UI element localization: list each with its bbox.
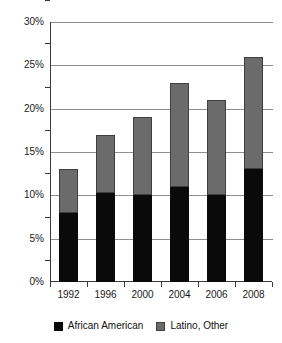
y-axis-label: 0% — [3, 277, 44, 287]
bar-segment-1996-african-american — [96, 193, 115, 282]
x-tick-mark — [161, 282, 162, 287]
y-axis-label: 5% — [3, 234, 44, 244]
bar-segment-2004-latino-other — [170, 83, 189, 187]
x-tick-mark — [272, 282, 273, 287]
legend-swatch-icon — [156, 322, 165, 331]
y-axis-label: 15% — [3, 147, 44, 157]
x-tick-mark — [235, 282, 236, 287]
bar-group-1992 — [59, 22, 78, 282]
chart-legend: African AmericanLatino, Other — [0, 318, 282, 334]
x-axis-label-2008: 2008 — [234, 289, 274, 301]
bar-group-2004 — [170, 22, 189, 282]
x-axis-label-1996: 1996 — [86, 289, 126, 301]
bar-segment-2000-latino-other — [133, 117, 152, 195]
legend-label: Latino, Other — [170, 321, 228, 331]
x-axis-label-2004: 2004 — [160, 289, 200, 301]
bar-segment-1996-latino-other — [96, 135, 115, 193]
y-axis-label: 25% — [3, 60, 44, 70]
y-tick-mark — [45, 0, 50, 1]
x-tick-mark — [198, 282, 199, 287]
y-axis: 0%5%10%15%20%25%30% — [0, 0, 44, 282]
bars-layer — [50, 22, 272, 282]
bar-segment-1992-latino-other — [59, 169, 78, 212]
bar-group-2008 — [244, 22, 263, 282]
x-tick-mark — [87, 282, 88, 287]
bar-segment-2006-latino-other — [207, 100, 226, 195]
bar-segment-2004-african-american — [170, 187, 189, 282]
legend-swatch-icon — [54, 322, 63, 331]
stacked-bar-chart: 0%5%10%15%20%25%30% 19921996200020042006… — [0, 0, 282, 343]
legend-item-latino-other: Latino, Other — [156, 321, 228, 331]
x-axis: 199219962000200420062008 — [50, 282, 272, 310]
bar-segment-2006-african-american — [207, 195, 226, 282]
bar-segment-1992-african-american — [59, 213, 78, 282]
legend-item-african-american: African American — [54, 321, 144, 331]
bar-group-2006 — [207, 22, 226, 282]
bar-segment-2008-latino-other — [244, 57, 263, 170]
x-tick-mark — [50, 282, 51, 287]
x-tick-mark — [124, 282, 125, 287]
bar-segment-2008-african-american — [244, 169, 263, 282]
x-axis-label-2000: 2000 — [123, 289, 163, 301]
y-axis-label: 30% — [3, 17, 44, 27]
legend-label: African American — [68, 321, 144, 331]
x-axis-label-1992: 1992 — [49, 289, 89, 301]
x-axis-label-2006: 2006 — [197, 289, 237, 301]
y-axis-label: 20% — [3, 104, 44, 114]
y-axis-label: 10% — [3, 190, 44, 200]
bar-group-2000 — [133, 22, 152, 282]
bar-group-1996 — [96, 22, 115, 282]
bar-segment-2000-african-american — [133, 195, 152, 282]
